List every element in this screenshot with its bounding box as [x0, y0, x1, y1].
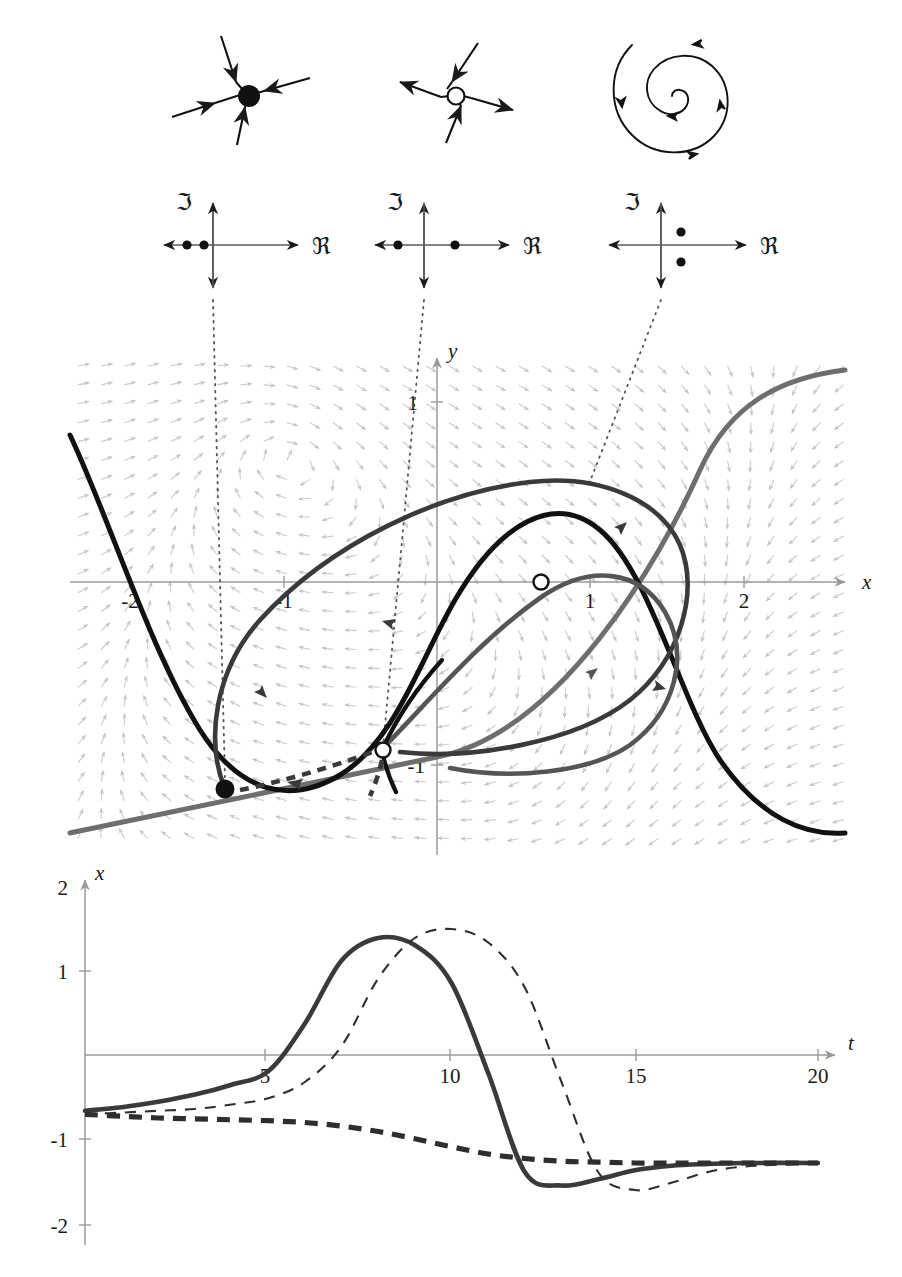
- figure-root: ℑ ℜ ℑ ℜ ℑ ℜ: [0, 0, 902, 1277]
- portrait-icon-stable-node: [172, 36, 310, 145]
- phase-ytick-label: 1: [408, 391, 419, 415]
- linear-nullcline: [70, 370, 845, 833]
- spiral-path: [614, 45, 728, 152]
- imaginary-axis-label: ℑ: [387, 189, 403, 215]
- eigenvalue-plane-stable-node: ℑ ℜ: [164, 189, 331, 288]
- imaginary-axis-label: ℑ: [176, 189, 192, 215]
- eigenvalue-point: [199, 240, 208, 249]
- stable-manifold-lower: [370, 760, 382, 796]
- eigenvalue-point: [450, 240, 459, 249]
- timeseries-ytick-label: -2: [51, 1214, 69, 1238]
- phase-xtick-label: 1: [585, 589, 596, 613]
- timeseries-xtick-label: 20: [808, 1064, 829, 1088]
- eigenvalue-plane-unstable-spiral: ℑ ℜ: [609, 189, 779, 288]
- real-axis-label: ℜ: [760, 233, 779, 259]
- figure-svg: ℑ ℜ ℑ ℜ ℑ ℜ: [0, 0, 902, 1277]
- time-series-panel: 2 1 -1 -2 5 10 15 20 x t: [51, 861, 856, 1245]
- equilibrium-unstable-spiral[interactable]: [534, 575, 549, 590]
- stable-node-marker: [238, 85, 260, 107]
- timeseries-ytick-label: 1: [58, 960, 69, 984]
- imaginary-axis-label: ℑ: [624, 189, 640, 215]
- saddle-lower-branch: [383, 755, 396, 792]
- eigenvalue-plane-saddle: ℑ ℜ: [375, 189, 542, 288]
- saddle-marker: [448, 88, 465, 105]
- eigenvalue-point: [182, 240, 191, 249]
- timeseries-xtick-label: 15: [626, 1064, 647, 1088]
- timeseries-ytick-label: 2: [58, 876, 69, 900]
- phase-xtick-label: 2: [739, 589, 750, 613]
- guide-to-spiral: [589, 300, 661, 484]
- timeseries-xtick-label: 10: [440, 1064, 461, 1088]
- inner-loop-arrows: [585, 668, 598, 680]
- equilibrium-saddle[interactable]: [376, 743, 391, 758]
- timeseries-y-axis-label: x: [94, 861, 105, 885]
- eigenvalue-point: [393, 240, 402, 249]
- equilibrium-stable-node[interactable]: [216, 780, 235, 799]
- series-thin-dashed: [85, 929, 818, 1190]
- phase-x-axis-label: x: [861, 570, 872, 594]
- real-axis-label: ℜ: [312, 233, 331, 259]
- phase-plane-panel: -2 -1 1 2 1 -1 x y: [70, 300, 872, 855]
- timeseries-ytick-label: -1: [51, 1128, 69, 1152]
- outer-loop-arrows: [254, 522, 666, 698]
- series-thick-dashed: [85, 1114, 818, 1163]
- phase-y-axis-label: y: [446, 339, 458, 363]
- eigenvalue-point: [676, 227, 685, 236]
- saddle-unstable-branch: [383, 660, 442, 748]
- portrait-icon-saddle: [400, 43, 513, 143]
- eigenvalue-point: [676, 257, 685, 266]
- series-solid-thick: [85, 937, 818, 1186]
- real-axis-label: ℜ: [523, 233, 542, 259]
- cubic-nullcline: [70, 435, 845, 833]
- timeseries-t-axis-label: t: [848, 1031, 855, 1055]
- portrait-icon-unstable-spiral: [614, 40, 728, 159]
